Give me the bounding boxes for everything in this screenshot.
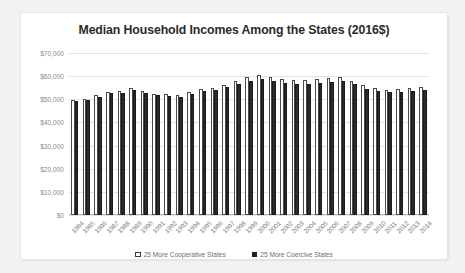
bar-group: [348, 53, 360, 215]
x-label-slot: 2005: [313, 216, 325, 252]
bar-group: [382, 53, 394, 215]
bar-group: [220, 53, 232, 215]
bar-group: [104, 53, 116, 215]
x-tick-label: 2014: [418, 220, 433, 235]
x-label-slot: 1999: [243, 216, 255, 252]
x-label-slot: 2012: [394, 216, 406, 252]
legend-label: 25 More Cooperative States: [144, 251, 226, 258]
x-label-slot: 2003: [290, 216, 302, 252]
x-label-slot: 2002: [278, 216, 290, 252]
bar-coercive[interactable]: [121, 93, 125, 215]
bar-coercive[interactable]: [272, 81, 276, 215]
chart-title: Median Household Incomes Among the State…: [21, 23, 447, 37]
bar-coercive[interactable]: [319, 83, 323, 215]
bar-group: [336, 53, 348, 215]
plot-area: $70,000$60,000$50,000$40,000$30,000$20,0…: [69, 53, 429, 215]
bar-coercive[interactable]: [365, 89, 369, 215]
x-label-slot: 2007: [336, 216, 348, 252]
bar-coercive[interactable]: [377, 91, 381, 216]
bar-group: [92, 53, 104, 215]
bar-coercive[interactable]: [388, 92, 392, 215]
bar-coercive[interactable]: [179, 97, 183, 215]
y-tick-label: $0: [57, 212, 64, 219]
bar-group: [278, 53, 290, 215]
bar-coercive[interactable]: [110, 93, 114, 215]
bar-coercive[interactable]: [214, 90, 218, 215]
bar-coercive[interactable]: [144, 93, 148, 215]
x-label-slot: 1995: [197, 216, 209, 252]
bar-group: [139, 53, 151, 215]
bar-group: [127, 53, 139, 215]
bar-coercive[interactable]: [203, 91, 207, 215]
x-label-slot: 1985: [81, 216, 93, 252]
bar-coercive[interactable]: [168, 96, 172, 215]
legend-label: 25 More Coercive States: [260, 251, 333, 258]
y-tick-label: $10,000: [40, 188, 64, 195]
bar-group: [185, 53, 197, 215]
bar-coercive[interactable]: [353, 84, 357, 215]
bar-group: [197, 53, 209, 215]
y-tick-label: $50,000: [40, 96, 64, 103]
bar-coercive[interactable]: [156, 95, 160, 215]
x-label-slot: 1994: [185, 216, 197, 252]
x-label-slot: 1989: [127, 216, 139, 252]
bar-group: [406, 53, 418, 215]
x-label-slot: 1991: [150, 216, 162, 252]
x-label-slot: 1986: [92, 216, 104, 252]
legend-item[interactable]: 25 More Cooperative States: [135, 251, 226, 258]
bar-coercive[interactable]: [400, 92, 404, 215]
bar-group: [301, 53, 313, 215]
bar-group: [150, 53, 162, 215]
bar-coercive[interactable]: [295, 84, 299, 215]
bar-group: [371, 53, 383, 215]
bar-group: [324, 53, 336, 215]
x-label-slot: 1988: [115, 216, 127, 252]
legend-swatch-icon: [252, 252, 258, 258]
bar-coercive[interactable]: [133, 90, 137, 215]
bar-group: [208, 53, 220, 215]
y-tick-label: $20,000: [40, 165, 64, 172]
bar-coercive[interactable]: [86, 100, 90, 215]
bar-group: [394, 53, 406, 215]
bar-coercive[interactable]: [249, 81, 253, 215]
y-tick-label: $40,000: [40, 119, 64, 126]
bar-coercive[interactable]: [284, 83, 288, 215]
x-label-slot: 1990: [139, 216, 151, 252]
bar-coercive[interactable]: [261, 79, 265, 215]
bar-group: [69, 53, 81, 215]
x-label-slot: 2008: [348, 216, 360, 252]
bar-coercive[interactable]: [307, 84, 311, 215]
bar-group: [359, 53, 371, 215]
x-label-slot: 1996: [208, 216, 220, 252]
bar-group: [290, 53, 302, 215]
bar-coercive[interactable]: [98, 97, 102, 215]
x-label-slot: 1998: [232, 216, 244, 252]
bar-coercive[interactable]: [226, 87, 230, 215]
bar-group: [173, 53, 185, 215]
x-label-slot: 1993: [173, 216, 185, 252]
bar-group: [417, 53, 429, 215]
legend-swatch-icon: [135, 252, 141, 258]
x-label-slot: 2011: [382, 216, 394, 252]
bar-group: [266, 53, 278, 215]
x-label-slot: 2014: [417, 216, 429, 252]
bar-coercive[interactable]: [342, 81, 346, 215]
chart-card: Median Household Incomes Among the State…: [20, 12, 448, 260]
bar-coercive[interactable]: [75, 101, 79, 215]
bar-group: [313, 53, 325, 215]
x-label-slot: 2009: [359, 216, 371, 252]
bar-coercive[interactable]: [411, 91, 415, 215]
x-axis-labels: 1984198519861987198819891990199119921993…: [69, 216, 429, 252]
x-label-slot: 1992: [162, 216, 174, 252]
x-label-slot: 1984: [69, 216, 81, 252]
chart-legend: 25 More Cooperative States25 More Coerci…: [21, 251, 447, 258]
bar-coercive[interactable]: [330, 82, 334, 215]
x-label-slot: 1997: [220, 216, 232, 252]
bar-coercive[interactable]: [237, 84, 241, 215]
x-label-slot: 2000: [255, 216, 267, 252]
bar-group: [243, 53, 255, 215]
bar-series-container: [69, 53, 429, 215]
bar-coercive[interactable]: [191, 94, 195, 215]
bar-coercive[interactable]: [423, 90, 427, 215]
legend-item[interactable]: 25 More Coercive States: [252, 251, 333, 258]
